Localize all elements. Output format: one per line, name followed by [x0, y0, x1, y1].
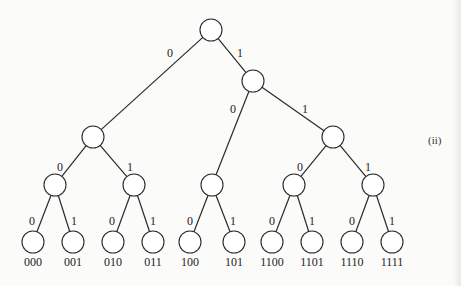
leaf-codeword: 100 — [181, 255, 199, 269]
leaf-node-1101 — [301, 231, 323, 253]
tree-edge-n01-l010 — [117, 195, 130, 231]
edge-bit-label: 1 — [309, 214, 315, 228]
tree-edge-n110-l1100 — [276, 195, 290, 231]
edge-bit-label: 1 — [127, 160, 133, 174]
tree-edge-n10-l100 — [194, 195, 208, 231]
edge-bit-label: 1 — [150, 214, 156, 228]
leaf-node-000 — [22, 231, 44, 253]
edge-bit-label: 0 — [269, 214, 275, 228]
internal-node-n00 — [44, 174, 66, 196]
edge-bit-label: 1 — [237, 46, 243, 60]
tree-edge-n110-l1101 — [297, 195, 308, 231]
leaf-codeword-labels: 0000010100111001011100110111101111 — [24, 255, 403, 269]
binary-tree-diagram: 010101010101010101 000001010011100101110… — [0, 0, 461, 286]
tree-edge-n111-l1111 — [376, 195, 388, 231]
leaf-codeword: 1110 — [340, 255, 363, 269]
internal-node-n10 — [201, 174, 223, 196]
edge-bit-label: 0 — [109, 214, 115, 228]
edge-bit-label: 0 — [349, 214, 355, 228]
internal-node-n01 — [123, 174, 145, 196]
leaf-codeword: 1101 — [300, 255, 324, 269]
edge-bit-label: 1 — [365, 160, 371, 174]
edge-bit-label: 0 — [230, 102, 236, 116]
internal-node-n11 — [322, 126, 344, 148]
edge-bit-label: 1 — [71, 214, 77, 228]
leaf-codeword: 000 — [24, 255, 42, 269]
edge-bit-label: 0 — [29, 214, 35, 228]
tree-edge-n0-n01 — [100, 145, 127, 176]
internal-node-n0 — [82, 126, 104, 148]
leaf-codeword: 1111 — [381, 255, 404, 269]
tree-edge-n111-l1110 — [356, 195, 369, 231]
leaf-node-101 — [223, 231, 245, 253]
leaf-codeword: 010 — [104, 255, 122, 269]
internal-node-n110 — [283, 174, 305, 196]
edge-bit-label: 1 — [230, 214, 236, 228]
leaf-node-1111 — [381, 231, 403, 253]
edge-bit-label: 1 — [302, 102, 308, 116]
leaf-node-100 — [179, 231, 201, 253]
page-edge-shadow — [453, 0, 461, 286]
leaf-codeword: 101 — [225, 255, 243, 269]
leaf-node-001 — [62, 231, 84, 253]
internal-node-root — [200, 19, 222, 41]
tree-edge-root-n0 — [101, 37, 203, 129]
tree-edge-n01-l011 — [137, 195, 149, 231]
leaf-codeword: 011 — [144, 255, 162, 269]
tree-edge-n10-l101 — [216, 195, 230, 231]
leaf-node-1100 — [261, 231, 283, 253]
tree-edge-n11-n110 — [301, 146, 326, 177]
tree-edge-n00-l001 — [58, 195, 69, 231]
tree-edge-n0-n00 — [62, 146, 86, 177]
leaf-node-1110 — [341, 231, 363, 253]
leaf-codeword: 001 — [64, 255, 82, 269]
tree-edge-n11-n111 — [340, 145, 366, 176]
prefix-code-tree-figure: 010101010101010101 000001010011100101110… — [0, 0, 461, 286]
tree-edge-n1-n11 — [262, 87, 324, 130]
edge-bit-label: 0 — [57, 160, 63, 174]
edge-bit-label: 0 — [187, 214, 193, 228]
leaf-codeword: 1100 — [260, 255, 284, 269]
internal-node-n1 — [242, 70, 264, 92]
internal-node-n111 — [362, 174, 384, 196]
leaf-node-011 — [142, 231, 164, 253]
edge-bit-label: 0 — [297, 160, 303, 174]
edge-bit-label: 0 — [167, 46, 173, 60]
tree-edge-n00-l000 — [37, 195, 51, 231]
tree-nodes — [22, 19, 403, 253]
leaf-node-010 — [102, 231, 124, 253]
edge-bit-label: 1 — [389, 214, 395, 228]
panel-label: (ii) — [428, 134, 442, 147]
